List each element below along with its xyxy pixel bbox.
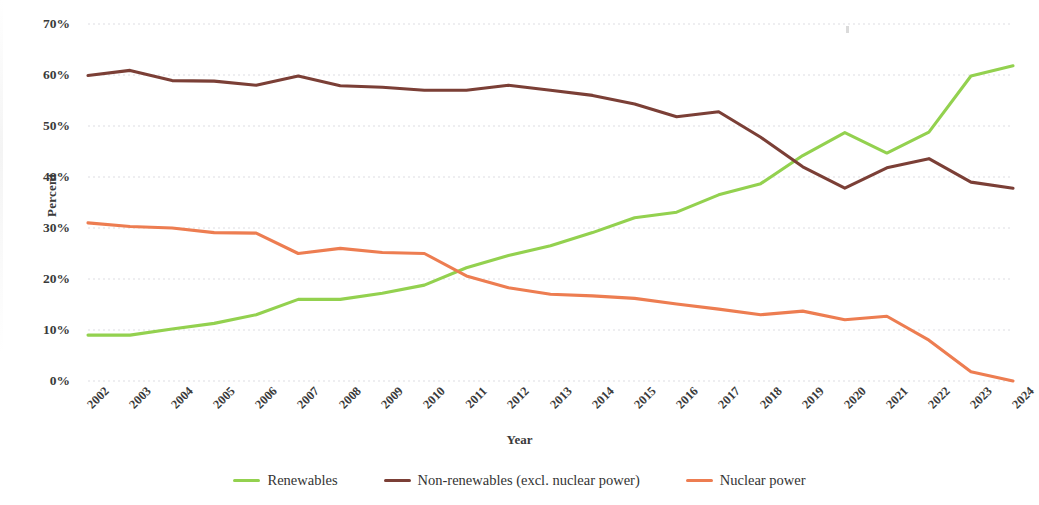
x-tick-label-2022: 2022 (912, 384, 954, 426)
legend-swatch-nuclear-power (686, 479, 713, 482)
y-tick-label-70: 70% (26, 17, 70, 31)
legend-swatch-renewables (233, 479, 260, 482)
x-tick-label-2008: 2008 (323, 384, 365, 426)
legend-label-renewables: Renewables (267, 472, 337, 489)
x-tick-label-2017: 2017 (702, 384, 744, 426)
x-tick-label-2004: 2004 (155, 384, 197, 426)
x-tick-label-2012: 2012 (491, 384, 533, 426)
x-tick-label-2013: 2013 (533, 384, 575, 426)
x-tick-label-2020: 2020 (828, 384, 870, 426)
y-tick-label-10: 10% (26, 323, 70, 337)
gridlines (88, 24, 1013, 381)
y-tick-label-50: 50% (26, 119, 70, 133)
x-tick-label-2006: 2006 (239, 384, 281, 426)
legend-item-non-renewables-excl-nuclear-power[interactable]: Non-renewables (excl. nuclear power) (384, 472, 640, 489)
y-tick-label-30: 30% (26, 221, 70, 235)
x-tick-label-2016: 2016 (660, 384, 702, 426)
x-tick-label-2002: 2002 (71, 384, 113, 426)
legend-label-non-renewables-excl-nuclear-power: Non-renewables (excl. nuclear power) (418, 472, 640, 489)
scan-edge-artifact (0, 0, 3, 505)
x-tick-label-2023: 2023 (954, 384, 996, 426)
y-tick-label-0: 0% (26, 374, 70, 388)
series-lines (88, 66, 1013, 381)
plot-area (88, 24, 1013, 381)
x-tick-label-2019: 2019 (786, 384, 828, 426)
plot-svg (88, 24, 1013, 381)
x-tick-label-2010: 2010 (407, 384, 449, 426)
legend-label-nuclear-power: Nuclear power (720, 472, 806, 489)
x-tick-label-2015: 2015 (617, 384, 659, 426)
y-tick-label-40: 40% (26, 170, 70, 184)
legend-swatch-non-renewables-excl-nuclear-power (384, 479, 411, 482)
x-tick-label-2007: 2007 (281, 384, 323, 426)
legend-item-renewables[interactable]: Renewables (233, 472, 337, 489)
x-tick-label-2021: 2021 (870, 384, 912, 426)
y-tick-label-20: 20% (26, 272, 70, 286)
x-tick-label-2005: 2005 (197, 384, 239, 426)
x-tick-label-2014: 2014 (575, 384, 617, 426)
renewables-share-line-chart: Percent 70%60%50%40%30%20%10%0% 20022003… (0, 0, 1039, 505)
x-tick-label-2011: 2011 (449, 384, 491, 426)
x-tick-label-2003: 2003 (113, 384, 155, 426)
chart-legend: RenewablesNon-renewables (excl. nuclear … (0, 472, 1039, 489)
legend-item-nuclear-power[interactable]: Nuclear power (686, 472, 806, 489)
series-line-non-renewables-excl-nuclear-power (88, 70, 1013, 188)
y-axis-tick-labels: 70%60%50%40%30%20%10%0% (26, 0, 70, 505)
x-tick-label-2024: 2024 (996, 384, 1038, 426)
x-tick-label-2009: 2009 (365, 384, 407, 426)
x-axis-title: Year (0, 432, 1039, 448)
x-tick-label-2018: 2018 (744, 384, 786, 426)
y-tick-label-60: 60% (26, 68, 70, 82)
